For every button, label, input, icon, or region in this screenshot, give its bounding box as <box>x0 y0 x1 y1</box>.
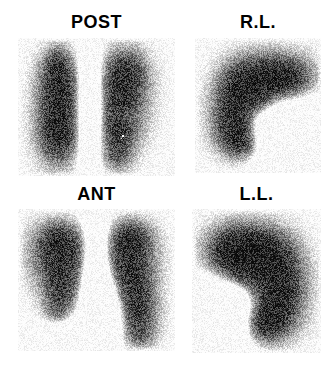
scan-image-ant <box>18 209 175 351</box>
panel-label-rl: R.L. <box>195 12 321 32</box>
panel-label-ant: ANT <box>18 184 175 204</box>
scan-canvas-ll <box>192 209 321 353</box>
scan-image-ll <box>192 209 321 353</box>
scan-image-post <box>18 38 175 176</box>
panel-label-post: POST <box>18 12 175 32</box>
panel-label-ll: L.L. <box>192 184 321 204</box>
scan-canvas-post <box>18 38 175 176</box>
scan-image-rl <box>195 38 321 173</box>
scan-canvas-ant <box>18 209 175 351</box>
scan-canvas-rl <box>195 38 321 173</box>
